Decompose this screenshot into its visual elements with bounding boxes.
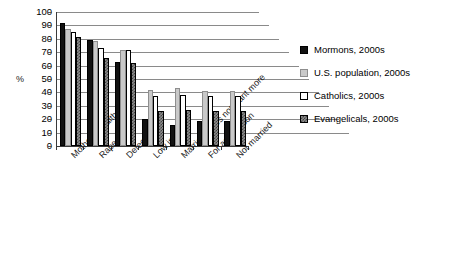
plot-area xyxy=(56,12,249,147)
y-axis-tick-mark xyxy=(48,66,52,67)
bar-group xyxy=(60,12,82,146)
bar xyxy=(131,63,136,146)
bar-chart-figure: % 1009080706050403020100 Mother's health… xyxy=(0,0,471,267)
bar-group xyxy=(87,12,109,146)
y-axis-tick-mark xyxy=(48,52,52,53)
bar xyxy=(104,58,109,146)
legend-item: U.S. population, 2000s xyxy=(300,61,468,84)
legend-item-label: Catholics, 2000s xyxy=(314,90,384,101)
chart-legend: Mormons, 2000sU.S. population, 2000sCath… xyxy=(300,38,468,130)
bar-group xyxy=(224,12,246,146)
y-axis-tick-mark xyxy=(48,25,52,26)
bar-group xyxy=(170,12,192,146)
bar-group xyxy=(115,12,137,146)
bar xyxy=(186,110,191,146)
bar xyxy=(158,111,163,146)
y-axis-tick-mark xyxy=(48,12,52,13)
bar-group xyxy=(197,12,219,146)
legend-swatch-evangelicals xyxy=(300,115,308,123)
y-axis-tick-labels: 1009080706050403020100 xyxy=(26,12,52,146)
y-axis-tick-mark xyxy=(48,146,52,147)
bar-groups xyxy=(57,12,249,146)
bar xyxy=(241,111,246,146)
legend-item: Catholics, 2000s xyxy=(300,84,468,107)
y-axis-tick-mark xyxy=(48,39,52,40)
y-axis-tick-mark xyxy=(48,133,52,134)
bar xyxy=(213,111,218,146)
y-axis-tick-mark xyxy=(48,106,52,107)
legend-item-label: U.S. population, 2000s xyxy=(314,67,410,78)
y-axis-tick-mark xyxy=(48,79,52,80)
y-axis-title: % xyxy=(16,74,24,84)
bar-group xyxy=(142,12,164,146)
legend-item-label: Evangelicals, 2000s xyxy=(314,113,399,124)
y-axis-tick-mark xyxy=(48,119,52,120)
y-axis-tick-mark xyxy=(48,92,52,93)
legend-item-label: Mormons, 2000s xyxy=(314,44,385,55)
legend-swatch-catholics xyxy=(300,92,308,100)
legend-swatch-mormons xyxy=(300,46,308,54)
legend-item: Mormons, 2000s xyxy=(300,38,468,61)
bar xyxy=(76,37,81,146)
legend-swatch-us-population xyxy=(300,69,308,77)
legend-item: Evangelicals, 2000s xyxy=(300,107,468,130)
x-axis-tick-mark xyxy=(56,146,57,150)
